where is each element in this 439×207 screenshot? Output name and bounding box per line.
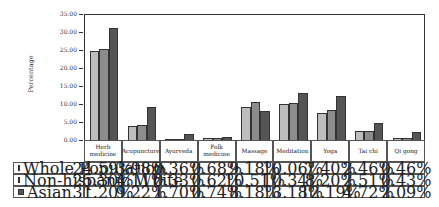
bar-chart: Percentage0.005.0010.0015.0020.0025.0030…	[0, 0, 439, 207]
bar-non-hispanic-white	[327, 110, 337, 140]
bar-whole-population	[355, 131, 365, 140]
bar-whole-population	[241, 107, 251, 140]
bar-asian	[298, 93, 308, 140]
y-tick-label: 5.00	[37, 119, 77, 125]
bar-whole-population	[317, 113, 327, 140]
y-tick-mark	[79, 122, 83, 123]
bar-whole-population	[128, 126, 138, 140]
y-tick-label: 20.00	[37, 65, 77, 71]
bar-asian	[260, 111, 270, 140]
y-tick-label: 15.00	[37, 83, 77, 89]
bar-non-hispanic-white	[99, 49, 109, 140]
bar-non-hispanic-white	[251, 102, 261, 140]
bar-non-hispanic-white	[137, 125, 147, 140]
bar-non-hispanic-white	[364, 131, 374, 140]
y-tick-mark	[79, 104, 83, 105]
bar-asian	[109, 28, 119, 140]
legend-swatch	[18, 165, 20, 171]
bar-asian	[147, 107, 157, 140]
bar-whole-population	[90, 51, 100, 140]
y-tick-mark	[79, 140, 83, 141]
y-tick-label: 30.00	[37, 29, 77, 35]
plot-area	[84, 14, 425, 140]
bar-whole-population	[279, 104, 289, 140]
y-axis-label: Percentage	[27, 51, 35, 97]
y-tick-label: 10.00	[37, 101, 77, 107]
y-tick-mark	[79, 14, 83, 15]
y-tick-label: 0.00	[37, 137, 77, 143]
y-tick-label: 25.00	[37, 47, 77, 53]
bar-non-hispanic-white	[289, 103, 299, 140]
bar-asian	[336, 96, 346, 140]
y-tick-mark	[79, 68, 83, 69]
y-tick-mark	[79, 32, 83, 33]
y-tick-mark	[79, 50, 83, 51]
bar-asian	[374, 123, 384, 140]
y-tick-mark	[79, 86, 83, 87]
bar-asian	[412, 132, 422, 140]
table-value-cell: 2.09%	[387, 186, 425, 198]
legend-swatch	[18, 189, 24, 195]
legend-label: Asian	[27, 189, 72, 196]
y-tick-label: 35.00	[37, 11, 77, 17]
legend-swatch	[18, 177, 20, 183]
